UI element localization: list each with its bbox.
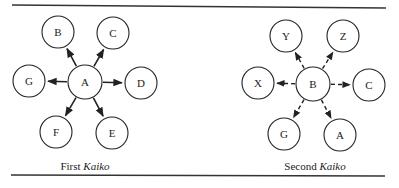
edge-b-to-z [323,52,333,69]
node-b: B [42,16,74,48]
node-label: E [109,127,116,139]
node-g: G [13,65,45,97]
edge-a-to-c [94,50,104,67]
node-label: F [53,126,59,138]
node-label: X [254,77,262,89]
node-c: C [97,17,129,49]
node-z: Z [327,20,359,52]
node-c: C [353,69,385,101]
node-label: Y [282,30,290,42]
panel-first-kaiko: ABCGDFE [13,16,157,149]
edge-a-to-b [67,49,76,66]
node-label: B [309,78,316,90]
node-d: D [125,67,157,99]
node-label: C [365,79,372,91]
node-label: A [81,76,89,88]
caption-second-kaiko: Second Kaiko [284,160,346,172]
edge-b-to-a [321,100,331,118]
node-x: X [242,67,274,99]
edge-b-to-g [294,100,305,118]
edge-b-to-y [295,53,304,69]
node-label: G [25,75,33,87]
node-g: G [268,118,300,150]
node-label: A [336,129,344,141]
panel-second-kaiko: BYZXCGA [242,20,385,151]
top-rule [12,5,386,8]
node-label: C [109,27,116,39]
node-a: A [324,119,356,151]
center-node-b: B [296,67,330,101]
kaiko-diagram: ABCGDFE BYZXCGA First Kaiko Second Kaiko [0,0,399,188]
node-e: E [96,117,128,149]
node-label: D [137,77,145,89]
node-label: Z [340,30,347,42]
center-node-a: A [68,65,102,99]
edge-a-to-e [93,98,103,116]
node-label: G [280,128,288,140]
edge-a-to-f [66,98,77,116]
node-y: Y [270,20,302,52]
node-f: F [40,116,72,148]
bottom-rule [11,175,385,176]
node-label: B [54,26,61,38]
caption-first-kaiko: First Kaiko [60,160,110,172]
